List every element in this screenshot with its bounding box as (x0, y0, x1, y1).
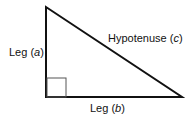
leg-b-label: Leg (b) (90, 102, 125, 114)
hypotenuse-label: Hypotenuse (c) (108, 32, 183, 44)
leg-a-label: Leg (a) (9, 46, 44, 58)
right-angle-marker (47, 78, 66, 97)
right-triangle-diagram: Leg (a) Hypotenuse (c) Leg (b) (0, 0, 190, 122)
